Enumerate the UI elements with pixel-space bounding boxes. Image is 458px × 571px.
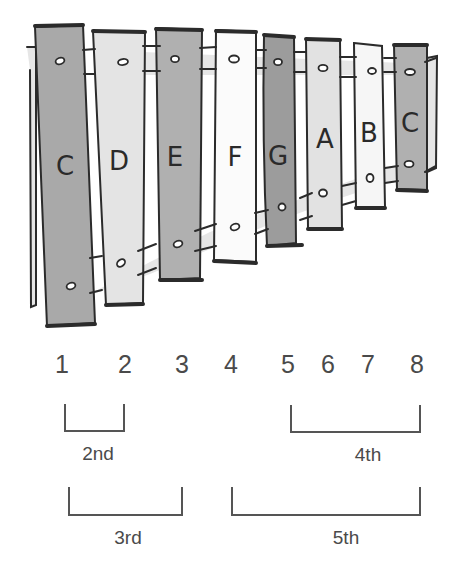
bar-label-f: F	[228, 142, 243, 172]
hole	[405, 161, 414, 167]
hole	[279, 204, 286, 211]
interval-bracket-4th	[290, 405, 421, 433]
interval-label-4th: 4th	[355, 445, 381, 464]
hole	[274, 59, 282, 65]
interval-bracket-3rd	[68, 487, 183, 516]
degree-3: 3	[175, 352, 189, 377]
degree-7: 7	[361, 352, 375, 377]
hole	[405, 69, 415, 75]
hole	[367, 174, 374, 182]
xylophone-illustration: C D E F G A B C	[0, 0, 458, 340]
hole	[319, 65, 328, 71]
hole	[229, 56, 239, 63]
interval-bracket-2nd	[64, 404, 125, 432]
hole	[368, 68, 376, 74]
bar-label-e: E	[167, 142, 183, 172]
hole	[171, 56, 179, 62]
bar-label-c-high: C	[401, 108, 419, 138]
interval-label-3rd: 3rd	[114, 528, 141, 547]
degree-8: 8	[410, 352, 424, 377]
frame-right	[427, 56, 437, 172]
interval-label-2nd: 2nd	[82, 444, 114, 463]
degree-5: 5	[281, 352, 295, 377]
degree-6: 6	[321, 352, 335, 377]
degree-2: 2	[118, 352, 132, 377]
interval-bracket-5th	[231, 487, 421, 516]
hole	[319, 190, 327, 197]
bar-label-d: D	[109, 146, 129, 176]
bar-label-b: B	[360, 118, 378, 148]
bar-label-g: G	[268, 141, 288, 171]
frame-left	[27, 47, 36, 307]
bar-label-a: A	[316, 124, 334, 154]
interval-label-5th: 5th	[333, 528, 359, 547]
bar-label-c-low: C	[56, 151, 74, 181]
degree-1: 1	[55, 352, 69, 377]
degree-4: 4	[224, 352, 238, 377]
